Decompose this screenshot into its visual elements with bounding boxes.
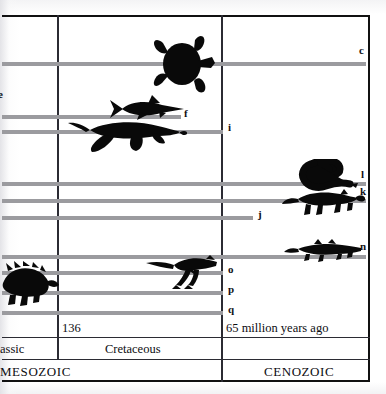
range-bar-q — [2, 311, 223, 315]
period-divider-jurassic-cretaceous — [57, 15, 59, 359]
range-label-l: l — [361, 169, 364, 180]
rule-above-era-row — [2, 359, 370, 360]
range-label-f: f — [184, 108, 188, 119]
plesiosaur-silhouette — [66, 114, 188, 154]
rule-above-period-row — [2, 337, 370, 338]
lizard-mammal-silhouette — [282, 185, 366, 217]
era-label-mesozoic: MESOZOIC — [0, 365, 71, 378]
theropod-dinosaur-silhouette — [146, 251, 220, 291]
tick-label-65-million-years-ago: 65 million years ago — [226, 322, 328, 335]
range-label-c: c — [359, 45, 364, 56]
range-label-i: i — [228, 122, 231, 133]
crocodile-silhouette — [284, 237, 364, 263]
range-label-e: e — [0, 89, 3, 100]
period-label-truncated: assic — [0, 343, 24, 356]
range-label-p: p — [228, 284, 234, 295]
stegosaur-silhouette — [0, 261, 60, 307]
range-bar-j — [2, 216, 253, 220]
range-label-j: j — [258, 209, 262, 220]
period-label-cretaceous: Cretaceous — [105, 343, 161, 356]
range-label-o: o — [228, 264, 234, 275]
tick-label-136: 136 — [62, 322, 81, 335]
range-label-k: k — [360, 186, 366, 197]
range-label-n: n — [360, 241, 366, 252]
sea-turtle-silhouette — [152, 33, 216, 95]
range-label-q: q — [228, 304, 234, 315]
era-label-cenozoic: CENOZOIC — [264, 365, 334, 378]
